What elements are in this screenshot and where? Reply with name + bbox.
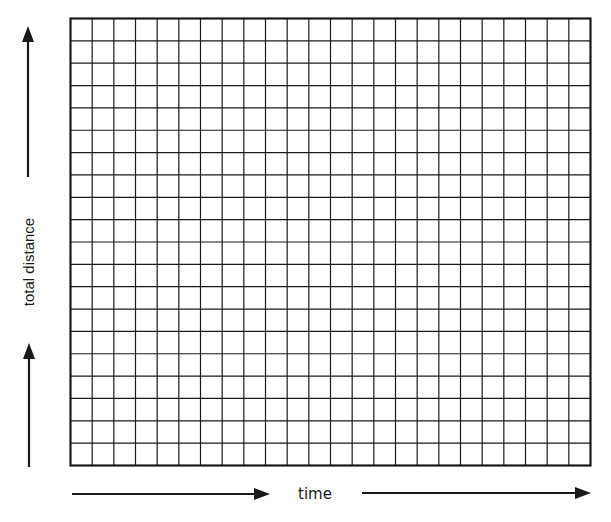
- y-axis-arrow-lower: [23, 343, 35, 467]
- graph-canvas: [0, 0, 611, 522]
- x-axis-label: time: [298, 485, 332, 503]
- y-axis-arrow-upper: [22, 26, 34, 177]
- graph-grid: [71, 19, 591, 466]
- y-axis-label: total distance: [20, 218, 37, 306]
- x-axis-arrow-left: [72, 488, 270, 500]
- x-axis-arrow-right: [362, 487, 591, 499]
